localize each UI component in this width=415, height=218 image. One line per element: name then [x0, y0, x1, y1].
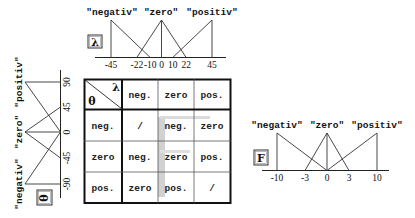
theta-positiv-slope — [25, 82, 61, 132]
theta-tick-label: 45 — [62, 102, 72, 112]
lambda-negativ-slope — [111, 20, 150, 58]
row-header-zero: zero — [92, 152, 115, 163]
col-header-pos: pos. — [201, 90, 224, 101]
force-membership-chart: "negativ" "zero" "positiv" F -10-30310 — [251, 120, 402, 183]
lambda-label-negativ: "negativ" — [86, 7, 137, 18]
lambda-tick-label: 0 — [159, 60, 164, 70]
lambda-tick-label: 10 — [168, 60, 178, 70]
force-label-positiv: "positiv" — [351, 120, 402, 131]
force-tick-label: 10 — [372, 173, 382, 183]
theta-symbol: θ — [38, 194, 51, 201]
lambda-tick-label: -10 — [144, 60, 157, 70]
lambda-tick-label: -22 — [130, 60, 143, 70]
table-cell: / — [209, 183, 215, 194]
corner-theta: θ — [88, 95, 95, 108]
col-header-neg: neg. — [129, 90, 152, 101]
corner-lambda: λ — [112, 81, 120, 94]
force-tick-label: 0 — [325, 173, 330, 183]
theta-tick-label: 90 — [62, 77, 72, 87]
theta-label-zero: "zero" — [14, 115, 25, 149]
force-label-zero: "zero" — [310, 120, 344, 131]
table-cell: zero — [201, 121, 224, 132]
row-header-neg: neg. — [92, 121, 115, 132]
theta-label-negativ: "negativ" — [14, 158, 25, 209]
table-cell: / — [137, 121, 143, 132]
lambda-membership-chart: "negativ" "zero" "positiv" λ -45-22-1001… — [86, 7, 237, 70]
table-cell: zero — [129, 183, 152, 194]
col-header-zero: zero — [165, 90, 188, 101]
force-negativ-slope — [277, 133, 327, 171]
force-symbol: F — [257, 152, 265, 165]
lambda-tick-label: 45 — [207, 60, 217, 70]
row-header-pos: pos. — [92, 183, 115, 194]
force-label-negativ: "negativ" — [251, 120, 302, 131]
theta-label-positiv: "positiv" — [14, 56, 25, 107]
table-cell: pos. — [165, 183, 188, 194]
theta-zero-right-slope — [25, 107, 61, 132]
rule-table: λ θ neg. zero pos. neg. / neg. zero zero… — [84, 79, 231, 203]
force-zero-left-slope — [305, 133, 327, 171]
theta-tick-label: -45 — [62, 151, 72, 164]
lambda-label-zero: "zero" — [144, 7, 178, 18]
table-cell: neg. — [129, 152, 152, 163]
theta-tick-label: 0 — [62, 129, 72, 134]
lambda-tick-label: -45 — [105, 60, 118, 70]
table-cell: pos. — [201, 152, 224, 163]
force-positiv-slope — [327, 133, 377, 171]
table-cell: neg. — [165, 121, 188, 132]
theta-negativ-slope — [25, 132, 61, 184]
lambda-zero-left-slope — [137, 20, 162, 58]
lambda-symbol: λ — [91, 36, 99, 49]
force-tick-label: -3 — [301, 173, 309, 183]
lambda-positiv-slope — [173, 20, 212, 58]
force-zero-right-slope — [327, 133, 349, 171]
force-tick-label: -10 — [271, 173, 284, 183]
table-cell: zero — [165, 152, 188, 163]
fuzzy-controller-diagram: "negativ" "zero" "positiv" λ -45-22-1001… — [0, 0, 415, 218]
lambda-zero-right-slope — [162, 20, 187, 58]
lambda-label-positiv: "positiv" — [186, 7, 237, 18]
theta-zero-left-slope — [25, 132, 61, 158]
table-row: pos. zero pos. / — [92, 183, 216, 194]
theta-tick-label: -90 — [62, 177, 72, 190]
theta-membership-chart: "negativ""zero""positiv" -90-4504590 θ — [14, 56, 72, 209]
force-tick-label: 3 — [347, 173, 352, 183]
lambda-tick-label: 22 — [181, 60, 191, 70]
table-row: zero neg. zero pos. — [92, 152, 224, 163]
